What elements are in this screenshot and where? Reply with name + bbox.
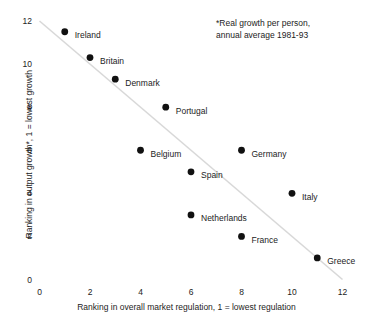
data-point-label-text: Germany: [252, 150, 287, 159]
data-point-label: Ireland: [71, 27, 101, 43]
data-point-label: Italy: [298, 188, 318, 204]
footnote-line-1: *Real growth per person,: [216, 18, 310, 30]
footnote-line-2: annual average 1981-93: [216, 30, 310, 42]
data-point-label: Denmark: [121, 74, 159, 90]
data-point-label-text: Denmark: [125, 79, 159, 88]
data-point-label: Netherlands: [197, 210, 247, 226]
footnote-annotation: *Real growth per person, annual average …: [216, 18, 310, 41]
data-point-label-text: France: [252, 236, 278, 245]
data-point-label-text: Spain: [201, 171, 223, 180]
trend-line-group: [40, 21, 343, 280]
data-point-marker: [61, 28, 68, 35]
data-point-marker: [238, 147, 245, 154]
data-point-label-text: Ireland: [75, 31, 101, 40]
x-tick-label: 0: [25, 288, 55, 297]
data-point-label-text: Netherlands: [201, 214, 247, 223]
data-point-marker: [289, 190, 296, 197]
plot-canvas: [0, 0, 373, 326]
data-point-marker: [238, 233, 245, 240]
data-point-marker: [87, 54, 94, 61]
data-point-label: Germany: [248, 145, 287, 161]
x-tick-label: 10: [277, 288, 307, 297]
x-tick-label: 4: [126, 288, 156, 297]
data-point-label: Greece: [323, 253, 355, 269]
x-tick-label: 6: [176, 288, 206, 297]
data-point-label-text: Italy: [302, 193, 318, 202]
data-point-marker: [162, 104, 169, 111]
y-axis-title: Ranking in output growth*, 1 = lowest gr…: [25, 39, 34, 269]
data-point-label-text: Belgium: [151, 150, 182, 159]
data-point-label: Belgium: [147, 145, 182, 161]
data-point-label: Spain: [197, 167, 223, 183]
data-point-marker: [137, 147, 144, 154]
data-point-label: Britain: [96, 53, 124, 69]
y-tick-label: 0: [10, 276, 32, 285]
data-point-marker: [188, 168, 195, 175]
data-point-label-text: Portugal: [176, 107, 208, 116]
x-tick-label: 12: [328, 288, 358, 297]
data-point-label: Portugal: [172, 102, 208, 118]
data-point-label-text: Greece: [327, 257, 355, 266]
data-point-marker: [314, 255, 321, 262]
y-tick-label: 12: [10, 17, 32, 26]
data-point-marker: [188, 211, 195, 218]
data-point-label: France: [248, 231, 278, 247]
x-tick-label: 8: [227, 288, 257, 297]
x-tick-label: 2: [75, 288, 105, 297]
x-axis-title: Ranking in overall market regulation, 1 …: [0, 303, 373, 312]
data-point-label-text: Britain: [100, 57, 124, 66]
data-point-marker: [112, 76, 119, 83]
chart-figure: 024681012 024681012 IrelandBritainDenmar…: [0, 0, 373, 326]
trend-line: [40, 21, 343, 280]
